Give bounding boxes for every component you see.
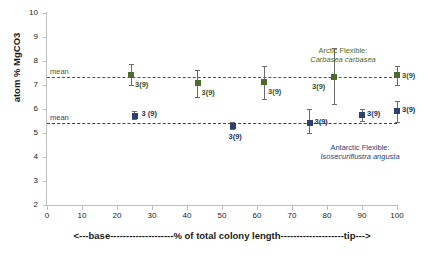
y-tick-label: 8: [14, 57, 38, 65]
data-point-label: 3(9): [315, 118, 328, 126]
x-tick-label: 40: [172, 212, 202, 220]
data-point: [129, 109, 141, 121]
x-tick-label: 100: [382, 212, 412, 220]
x-tick-label: 70: [277, 212, 307, 220]
x-tick-mark: [222, 206, 223, 210]
error-bar-cap-lower: [360, 121, 365, 122]
antarctic-group-label: Antarctic Flexible:: [330, 143, 389, 152]
x-tick-label: 50: [207, 212, 237, 220]
data-marker: [394, 72, 400, 78]
y-tick-label: 7: [14, 81, 38, 89]
x-tick-label: 90: [347, 212, 377, 220]
x-tick-mark: [257, 206, 258, 210]
series-annotation-antarctic: Antarctic Flexible: Isosecuriflustra ang…: [300, 143, 420, 162]
error-bar-cap-lower: [132, 119, 137, 120]
x-tick-label: 60: [242, 212, 272, 220]
data-point-label: 3(9): [268, 88, 281, 96]
y-tick-label: 3: [14, 177, 38, 185]
x-tick-mark: [117, 206, 118, 210]
data-marker: [128, 72, 134, 78]
x-tick-mark: [82, 206, 83, 210]
y-tick-mark: [43, 133, 47, 134]
mean-label-antarctic: mean: [50, 114, 69, 122]
data-marker: [394, 108, 400, 114]
error-bar-cap-lower: [195, 97, 200, 98]
arctic-group-label: Arctic Flexible:: [319, 46, 368, 55]
y-tick-mark: [43, 109, 47, 110]
x-tick-label: 30: [137, 212, 167, 220]
data-marker: [195, 80, 201, 86]
x-tick-mark: [362, 206, 363, 210]
x-tick-label: 10: [67, 212, 97, 220]
x-tick-mark: [47, 206, 48, 210]
y-tick-mark: [43, 61, 47, 62]
data-point-label: 3 (9): [142, 110, 157, 118]
error-bar-cap-lower: [395, 85, 400, 86]
mean-label-arctic: mean: [50, 68, 69, 76]
error-bar-cap-upper: [307, 109, 312, 110]
data-marker: [307, 120, 313, 126]
y-tick-mark: [43, 181, 47, 182]
data-marker: [230, 123, 236, 129]
data-marker: [261, 79, 267, 85]
y-tick-label: 6: [14, 105, 38, 113]
x-tick-label: 20: [102, 212, 132, 220]
x-tick-mark: [187, 206, 188, 210]
data-point-label: 3(9): [312, 83, 325, 91]
data-marker: [331, 74, 337, 80]
error-bar-cap-lower: [395, 122, 400, 123]
error-bar-cap-upper: [395, 66, 400, 67]
mean-line-antarctic: [47, 123, 397, 124]
x-tick-label: 0: [32, 212, 62, 220]
y-tick-label: 2: [14, 201, 38, 209]
data-point-label: 3(9): [135, 81, 148, 89]
y-tick-mark: [43, 37, 47, 38]
error-bar-cap-lower: [307, 133, 312, 134]
error-bar-cap-upper: [195, 70, 200, 71]
data-point-label: 3(9): [402, 106, 415, 114]
antarctic-species-name: Isosecuriflustra angusta: [320, 152, 399, 161]
x-tick-label: 80: [312, 212, 342, 220]
y-tick-label: 10: [14, 9, 38, 17]
series-annotation-arctic: Arctic Flexible: Carbasea carbasea: [283, 46, 403, 65]
y-tick-mark: [43, 13, 47, 14]
y-tick-label: 5: [14, 129, 38, 137]
error-bar-cap-lower: [129, 85, 134, 86]
error-bar-cap-upper: [395, 101, 400, 102]
arctic-species-name: Carbasea carbasea: [310, 55, 375, 64]
error-bar-cap-lower: [332, 104, 337, 105]
data-point: [227, 120, 239, 130]
data-point-label: 3(9): [367, 110, 380, 118]
y-tick-label: 4: [14, 153, 38, 161]
data-marker: [132, 113, 138, 119]
data-point-label: 3(9): [202, 89, 215, 97]
error-bar-cap-upper: [360, 109, 365, 110]
mean-line-arctic: [47, 77, 397, 78]
error-bar-cap-upper: [129, 64, 134, 65]
data-point-label: 3(9): [402, 72, 415, 80]
x-tick-mark: [327, 206, 328, 210]
chart-figure: atom % MgCO3 <---base-------------------…: [0, 0, 427, 257]
y-tick-label: 9: [14, 33, 38, 41]
x-tick-mark: [152, 206, 153, 210]
error-bar-cap-lower: [230, 129, 235, 130]
error-bar-cap-upper: [262, 66, 267, 67]
y-tick-mark: [43, 157, 47, 158]
error-bar-cap-lower: [262, 99, 267, 100]
x-tick-mark: [292, 206, 293, 210]
data-point-label: 3(9): [229, 133, 242, 141]
x-tick-mark: [397, 206, 398, 210]
data-marker: [359, 112, 365, 118]
x-axis-title: <---base--------------------% of total c…: [47, 230, 397, 241]
y-tick-mark: [43, 85, 47, 86]
